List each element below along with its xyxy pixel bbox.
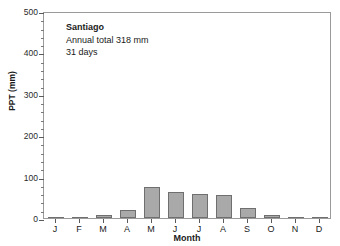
y-axis-minor-tick [41,154,44,155]
y-axis-major-tick [39,179,44,180]
y-axis-major-tick [39,137,44,138]
station-name: Santiago [66,21,149,34]
x-axis-tick [79,219,80,223]
x-axis-tick [175,219,176,223]
y-axis-minor-tick [41,71,44,72]
y-axis-major-tick [39,13,44,14]
bar-m-2 [96,215,112,218]
bar-a-7 [216,195,232,218]
bar-d-11 [312,217,328,218]
bar-j-6 [192,194,208,218]
bar-j-5 [168,192,184,218]
y-axis-tick-labels: 0100200300400500 [8,12,38,219]
y-axis-major-tick [39,96,44,97]
y-axis-minor-tick [41,162,44,163]
y-axis-tick-label: 400 [8,49,38,58]
bar-a-3 [120,210,136,218]
y-axis-minor-tick [41,30,44,31]
y-axis-tick-label: 200 [8,132,38,141]
x-axis-title: Month [43,233,331,243]
y-axis-minor-tick [41,63,44,64]
x-axis-tick [271,219,272,223]
plot-area: Santiago Annual total 318 mm 31 days [43,12,331,219]
y-axis-minor-tick [41,145,44,146]
y-axis-minor-tick [41,104,44,105]
y-axis-minor-tick [41,121,44,122]
x-axis-tick [247,219,248,223]
y-axis-minor-tick [41,21,44,22]
y-axis-minor-tick [41,112,44,113]
x-axis-tick [295,219,296,223]
x-axis-tick [127,219,128,223]
y-axis-tick-label: 300 [8,91,38,100]
y-axis-minor-tick [41,129,44,130]
y-axis-minor-tick [41,203,44,204]
y-axis-minor-tick [41,79,44,80]
x-axis-tick [151,219,152,223]
bar-o-9 [264,215,280,218]
y-axis-minor-tick [41,195,44,196]
bar-s-8 [240,208,256,218]
y-axis-tick-label: 100 [8,174,38,183]
x-axis-tick [319,219,320,223]
bar-f-1 [72,217,88,218]
precipitation-chart: PPT (mm) 0100200300400500 Santiago Annua… [0,0,340,246]
x-axis-tick [103,219,104,223]
y-axis-minor-tick [41,38,44,39]
rain-days-text: 31 days [66,46,149,59]
y-axis-tick-label: 500 [8,8,38,17]
y-axis-minor-tick [41,212,44,213]
x-axis-tick [223,219,224,223]
y-axis-minor-tick [41,88,44,89]
y-axis-minor-tick [41,46,44,47]
annotation-block: Santiago Annual total 318 mm 31 days [66,21,149,59]
x-axis-tick [55,219,56,223]
bar-j-0 [48,217,64,218]
y-axis-tick-label: 0 [8,215,38,224]
x-axis-tick [199,219,200,223]
bar-m-4 [144,187,160,218]
annual-total-text: Annual total 318 mm [66,34,149,47]
y-axis-minor-tick [41,170,44,171]
y-axis-minor-tick [41,187,44,188]
bar-n-10 [288,217,304,218]
y-axis-major-tick [39,54,44,55]
